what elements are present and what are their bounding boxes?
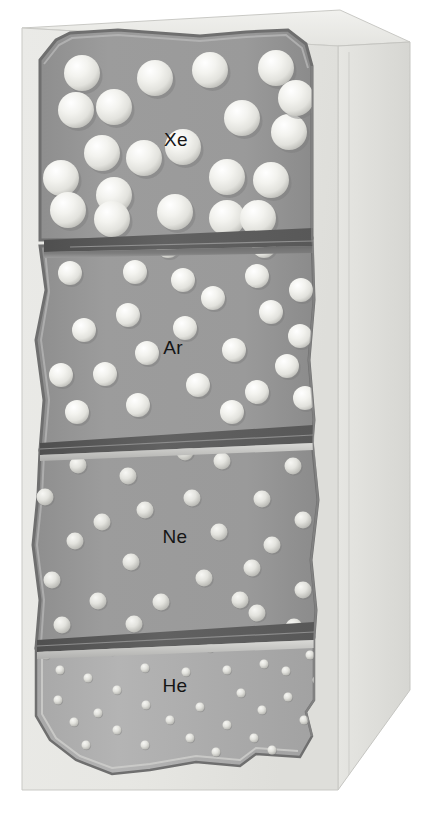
gas-particle-body xyxy=(116,303,140,327)
gas-particle-body xyxy=(49,363,73,387)
gas-particle-body xyxy=(245,264,269,288)
gas-particle-body xyxy=(295,582,312,599)
gas-particle-body xyxy=(186,373,210,397)
gas-particle-body xyxy=(123,554,140,571)
gas-particle-body xyxy=(90,593,107,610)
gas-particle-body xyxy=(258,50,294,86)
gas-particle-body xyxy=(282,667,291,676)
gas-particle-body xyxy=(258,706,267,715)
gas-particle-body xyxy=(54,696,63,705)
gas-particle-body xyxy=(137,502,154,519)
gas-particle-body xyxy=(171,268,195,292)
gas-particle-body xyxy=(196,703,205,712)
gas-particle-body xyxy=(254,491,271,508)
gas-particle-body xyxy=(224,100,260,136)
gas-particle-body xyxy=(96,89,132,125)
gas-particle-body xyxy=(253,162,289,198)
gas-particle-body xyxy=(259,300,283,324)
gas-particle-body xyxy=(94,514,111,531)
gas-particle-body xyxy=(126,393,150,417)
gas-particle-body xyxy=(184,490,201,507)
gas-label-xe: Xe xyxy=(164,129,188,150)
gas-particle-body xyxy=(135,341,159,365)
gas-particle-body xyxy=(271,114,307,150)
gas-label-he: He xyxy=(163,675,188,696)
gas-particle-body xyxy=(223,721,232,730)
gas-label-ar: Ar xyxy=(163,337,183,358)
gas-particle-body xyxy=(196,570,213,587)
gas-particle-body xyxy=(82,741,91,750)
gas-particle-body xyxy=(94,709,103,718)
gas-particle-body xyxy=(84,674,93,683)
noble-gas-diagram: Xe Ar Ne He xyxy=(0,0,427,814)
gas-particle-body xyxy=(84,135,120,171)
gas-particle-body xyxy=(264,537,281,554)
gas-particle-body xyxy=(192,52,228,88)
gas-particle-body xyxy=(284,693,293,702)
gas-particle-body xyxy=(212,748,221,757)
gas-particle-body xyxy=(120,468,137,485)
chamber-ne: Ne xyxy=(33,441,318,648)
gas-particle-body xyxy=(142,701,151,710)
gas-particle-body xyxy=(58,92,94,128)
gas-particle-body xyxy=(288,324,312,348)
gas-particle-body xyxy=(94,201,130,237)
gas-particle-body xyxy=(222,338,246,362)
gas-particle-body xyxy=(65,400,89,424)
gas-particle-body xyxy=(64,55,100,91)
gas-particle-body xyxy=(58,261,82,285)
gas-particle-body xyxy=(186,734,195,743)
gas-particle-body xyxy=(113,726,122,735)
gas-particle-body xyxy=(245,380,269,404)
gas-particle-body xyxy=(237,689,246,698)
gas-particle-body xyxy=(275,354,299,378)
gas-particle-body xyxy=(93,362,117,386)
diagram-canvas: Xe Ar Ne He xyxy=(0,0,427,814)
gas-label-ne: Ne xyxy=(163,526,188,547)
gas-particle-body xyxy=(113,686,122,695)
gas-particle-body xyxy=(141,741,150,750)
gas-particle-body xyxy=(209,159,245,195)
gas-particle-body xyxy=(289,278,313,302)
gas-particle-body xyxy=(211,524,228,541)
gas-particle-body xyxy=(126,140,162,176)
gas-particle-body xyxy=(123,260,147,284)
gas-particle-body xyxy=(295,512,312,529)
gas-particle-body xyxy=(153,594,170,611)
gas-particle-body xyxy=(67,533,84,550)
gas-particle-body xyxy=(285,458,302,475)
gas-particle-body xyxy=(260,660,269,669)
gas-particle-body xyxy=(126,616,143,633)
gas-particle-body xyxy=(157,194,193,230)
gas-particle-body xyxy=(54,617,71,634)
gas-particle-body xyxy=(220,400,244,424)
gas-particle-body xyxy=(278,80,314,116)
gas-particle-body xyxy=(141,664,150,673)
gas-particle-body xyxy=(72,318,96,342)
gas-particle-body xyxy=(43,160,79,196)
gas-particle-body xyxy=(250,734,259,743)
gas-particle-body xyxy=(70,718,79,727)
gas-particle-body xyxy=(249,605,266,622)
gas-particle-body xyxy=(37,489,54,506)
gas-particle-body xyxy=(223,666,232,675)
gas-particle-body xyxy=(50,192,86,228)
gas-particle-body xyxy=(201,286,225,310)
chamber-xe: Xe xyxy=(40,30,317,240)
chamber-ar: Ar xyxy=(36,234,319,450)
gas-particle-body xyxy=(44,572,61,589)
chamber-he: He xyxy=(36,637,322,774)
gas-particle-body xyxy=(166,716,175,725)
gas-particle-body xyxy=(268,746,277,755)
gas-particle-body xyxy=(137,60,173,96)
gas-particle-body xyxy=(214,453,231,470)
gas-particle-body xyxy=(232,592,249,609)
gas-particle-body xyxy=(56,666,65,675)
gas-particle-body xyxy=(209,200,245,236)
gas-particle-body xyxy=(244,560,261,577)
